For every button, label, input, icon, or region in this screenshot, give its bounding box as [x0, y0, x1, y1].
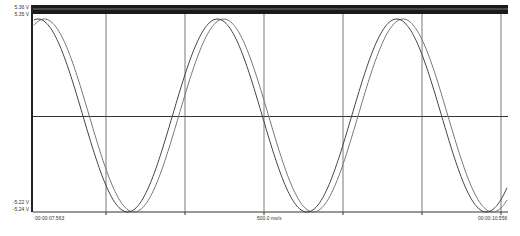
channel-a-trace — [34, 19, 507, 212]
y-axis-line — [31, 5, 33, 212]
waveform-plot[interactable] — [0, 0, 520, 236]
vertical-gridlines — [106, 14, 501, 212]
